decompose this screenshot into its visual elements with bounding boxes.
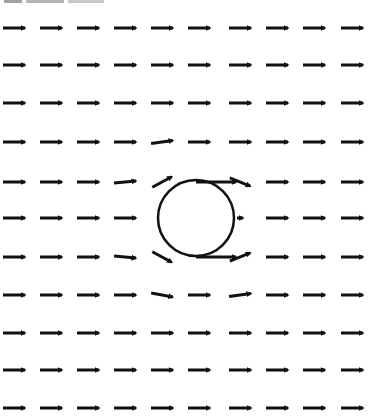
flow-arrow-icon: [151, 141, 173, 144]
flow-arrows: [3, 28, 363, 408]
vector-field-diagram: [0, 0, 372, 419]
flow-arrow-icon: [114, 256, 136, 258]
flow-arrow-icon: [229, 294, 251, 297]
flow-arrow-icon: [152, 177, 171, 187]
flow-arrow-icon: [151, 293, 173, 297]
flow-arrow-icon: [114, 181, 136, 183]
cylinder-circle: [158, 180, 234, 256]
flow-arrow-icon: [152, 252, 171, 262]
